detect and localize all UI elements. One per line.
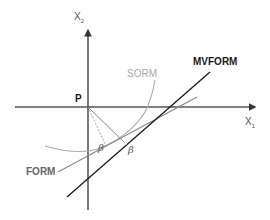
x2-axis-label: X2	[74, 12, 84, 24]
origin-label-p: P	[75, 94, 82, 104]
mvform-label: MVFORM	[193, 57, 237, 67]
form-line	[58, 97, 197, 172]
beta-form-distance-line	[88, 107, 106, 146]
beta-mvform-label: β	[128, 145, 134, 155]
x1-axis-label: X1	[245, 117, 255, 129]
sorm-label: SORM	[127, 69, 157, 79]
sorm-curve	[45, 80, 155, 152]
form-label: FORM	[26, 167, 55, 177]
diagram-canvas	[0, 0, 270, 220]
beta-form-label: β	[98, 143, 104, 153]
